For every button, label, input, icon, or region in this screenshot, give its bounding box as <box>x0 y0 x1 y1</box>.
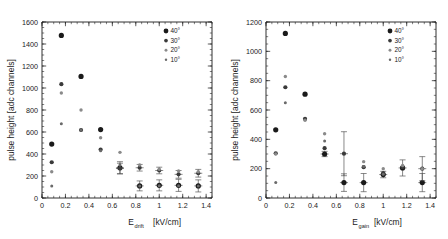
data-point <box>197 170 200 173</box>
x-tick-label: 1.4 <box>201 201 211 210</box>
y-tick-label: 200 <box>26 172 38 181</box>
y-tick-label: 1200 <box>246 18 262 27</box>
x-tick-label: 0 <box>40 201 44 210</box>
legend-label: 20° <box>395 46 405 53</box>
x-tick-label: 0.8 <box>355 201 365 210</box>
data-point <box>138 185 141 188</box>
legend-label: 40° <box>171 27 181 34</box>
data-point <box>59 33 64 38</box>
data-point <box>342 152 346 156</box>
data-point <box>197 184 200 187</box>
data-point <box>323 140 326 143</box>
plot-svg-right: 00.20.40.60.811.21.402004006008001000120… <box>224 0 448 239</box>
figure-container: 00.20.40.60.811.21.402004006008001000120… <box>0 0 448 239</box>
legend-marker-10deg <box>165 59 167 61</box>
data-point <box>362 165 365 168</box>
data-point <box>361 180 366 185</box>
data-point <box>118 164 121 167</box>
x-tick-label: 1 <box>157 201 161 210</box>
data-point <box>138 163 141 166</box>
y-tick-label: 600 <box>26 128 38 137</box>
y-tick-label: 600 <box>250 106 262 115</box>
data-point <box>401 164 404 167</box>
x-tick-label: 1.2 <box>178 201 188 210</box>
data-point <box>99 149 102 152</box>
legend-marker-20deg <box>165 49 168 52</box>
plot-right-content: 00.20.40.60.811.21.402004006008001000120… <box>230 18 436 229</box>
x-tick-label: 0 <box>264 201 268 210</box>
x-axis-title-unit: [kV/cm] <box>374 217 402 227</box>
data-point <box>283 85 287 89</box>
x-tick-label: 1 <box>381 201 385 210</box>
chart-panel-right: 00.20.40.60.811.21.402004006008001000120… <box>224 0 448 239</box>
x-tick-label: 0.4 <box>308 201 318 210</box>
y-axis-title: pulse height [adc channels] <box>230 59 240 161</box>
data-point <box>382 173 385 176</box>
y-tick-label: 800 <box>26 106 38 115</box>
series-10deg <box>50 122 200 187</box>
legend-label: 10° <box>395 56 405 63</box>
legend-marker-30deg <box>388 39 392 43</box>
data-point <box>118 166 122 170</box>
plot-left-content: 00.20.40.60.811.21.402004006008001000120… <box>6 18 212 229</box>
legend-label: 30° <box>171 37 181 44</box>
y-tick-label: 1600 <box>22 18 38 27</box>
data-point <box>284 75 287 78</box>
x-axis-title-subscript: drift <box>135 223 145 229</box>
legend-marker-40deg <box>388 29 393 34</box>
x-tick-label: 1.4 <box>425 201 435 210</box>
x-tick-label: 0.6 <box>331 201 341 210</box>
data-point <box>323 132 326 135</box>
data-point <box>176 172 180 176</box>
data-point <box>341 180 346 185</box>
data-point <box>284 101 287 104</box>
x-axis-title: E <box>128 217 134 227</box>
legend: 40°30°20°10° <box>164 27 181 63</box>
x-axis-title: E <box>352 217 358 227</box>
data-point <box>158 167 161 170</box>
data-point <box>50 160 54 164</box>
x-axis-title-subscript: gain <box>359 223 370 229</box>
data-point <box>60 91 63 94</box>
data-point <box>274 152 277 155</box>
data-point <box>274 181 277 184</box>
data-point <box>362 160 365 163</box>
series-10deg <box>274 101 385 184</box>
data-point <box>322 151 327 156</box>
x-tick-label: 0.2 <box>60 201 70 210</box>
y-tick-label: 1000 <box>22 84 38 93</box>
data-point <box>59 82 63 86</box>
data-point <box>302 92 307 97</box>
data-point <box>158 184 161 187</box>
data-point <box>78 74 83 79</box>
x-tick-label: 0.6 <box>107 201 117 210</box>
series-20deg <box>50 91 200 173</box>
legend-label: 30° <box>395 37 405 44</box>
data-point <box>60 122 63 125</box>
y-axis-title: pulse height [adc channels] <box>6 59 16 161</box>
series-30deg <box>50 82 203 178</box>
data-point <box>50 185 53 188</box>
data-point <box>80 129 83 132</box>
y-tick-label: 200 <box>250 164 262 173</box>
data-point <box>273 127 278 132</box>
data-point <box>177 169 180 172</box>
y-tick-label: 1400 <box>22 40 38 49</box>
legend-label: 40° <box>395 27 405 34</box>
data-point <box>99 136 102 139</box>
x-axis-title-unit: [kV/cm] <box>153 217 181 227</box>
y-tick-label: 1200 <box>22 62 38 71</box>
data-point <box>50 170 53 173</box>
data-point <box>118 151 121 154</box>
chart-panel-left: 00.20.40.60.811.21.402004006008001000120… <box>0 0 224 239</box>
legend-label: 20° <box>171 46 181 53</box>
legend: 40°30°20°10° <box>388 27 405 63</box>
legend-marker-20deg <box>389 49 392 52</box>
data-point <box>303 119 306 122</box>
data-point <box>421 167 424 170</box>
y-tick-label: 1000 <box>246 47 262 56</box>
legend-marker-30deg <box>164 39 168 43</box>
x-tick-label: 0.4 <box>84 201 94 210</box>
legend-marker-40deg <box>164 29 169 34</box>
y-tick-label: 400 <box>26 150 38 159</box>
